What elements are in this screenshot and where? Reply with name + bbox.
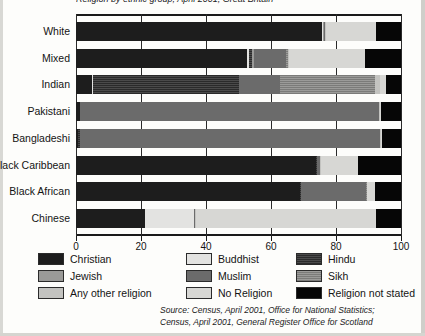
bar-segment-no-religion (367, 182, 374, 201)
legend-item-buddhist[interactable]: Buddhist (186, 252, 259, 265)
gridline-60 (271, 14, 272, 236)
legend-item-sikh[interactable]: Sikh (296, 269, 348, 282)
chart-title: Religion by ethnic group, April 2001, Gr… (76, 0, 406, 6)
bar-row (76, 102, 401, 121)
bar-segment-religion-not-stated (375, 182, 401, 201)
bar-segment-no-religion (326, 22, 376, 41)
source-line-1: Source: Census, April 2001, Office for N… (160, 304, 416, 316)
bar-segment-muslim (80, 129, 381, 148)
legend-swatch-other (38, 287, 64, 299)
legend-item-hindu[interactable]: Hindu (296, 252, 355, 265)
bar-segment-religion-not-stated (365, 49, 401, 68)
legend-label-norel: No Religion (218, 287, 272, 299)
bar-segment-christian (76, 22, 322, 41)
legend-swatch-sikh (296, 270, 322, 282)
bar-row (76, 49, 401, 68)
bar-row (76, 22, 401, 41)
legend-label-hindu: Hindu (328, 253, 355, 265)
bar-segment-christian (76, 209, 145, 228)
legend-swatch-hindu (296, 253, 322, 265)
bar-row (76, 209, 401, 228)
y-axis-label-white: White (0, 22, 70, 41)
stacked-bar[interactable] (76, 75, 401, 94)
bar-segment-muslim (80, 102, 379, 121)
source-note: Source: Census, April 2001, Office for N… (160, 304, 416, 328)
legend-item-other[interactable]: Any other religion (38, 286, 152, 299)
legend-label-jewish: Jewish (70, 270, 102, 282)
bar-segment-religion-not-stated (358, 156, 401, 175)
bar-segment-religion-not-stated (376, 209, 401, 228)
bar-segment-christian (76, 49, 247, 68)
stacked-bar[interactable] (76, 102, 401, 121)
legend-label-buddhist: Buddhist (218, 253, 259, 265)
bar-segment-religion-not-stated (382, 129, 401, 148)
bar-segment-muslim (239, 75, 280, 94)
bar-segment-christian (76, 156, 316, 175)
legend-label-christian: Christian (70, 253, 111, 265)
x-tick-label-40: 40 (200, 241, 211, 252)
bar-row (76, 182, 401, 201)
bar-segment-religion-not-stated (376, 22, 401, 41)
bar-segment-religion-not-stated (381, 102, 401, 121)
bar-segment-hindu (93, 75, 239, 94)
legend-label-other: Any other religion (70, 287, 152, 299)
stacked-bar[interactable] (76, 182, 401, 201)
legend-swatch-norel (186, 287, 212, 299)
stacked-bar[interactable] (76, 156, 401, 175)
x-tick-label-80: 80 (330, 241, 341, 252)
legend-item-christian[interactable]: Christian (38, 252, 111, 265)
bar-segment-buddhist (145, 209, 194, 228)
y-axis-label-mixed: Mixed (0, 49, 70, 68)
stacked-bar[interactable] (76, 22, 401, 41)
gridline-0 (76, 14, 77, 236)
y-axis-label-chinese: Chinese (0, 209, 70, 228)
legend-item-notstated[interactable]: Religion not stated (296, 286, 415, 299)
stacked-bar[interactable] (76, 209, 401, 228)
stacked-bar[interactable] (76, 49, 401, 68)
x-tick-label-20: 20 (135, 241, 146, 252)
bar-row (76, 129, 401, 148)
bar-segment-no-religion (196, 209, 376, 228)
gridline-40 (206, 14, 207, 236)
legend-swatch-buddhist (186, 253, 212, 265)
y-axis-label-bangladeshi: Bangladeshi (0, 129, 70, 148)
legend-label-sikh: Sikh (328, 270, 348, 282)
legend-item-norel[interactable]: No Religion (186, 286, 272, 299)
bar-segment-christian (76, 75, 92, 94)
chart-legend: ChristianJewishAny other religionBuddhis… (38, 252, 410, 300)
legend-swatch-christian (38, 253, 64, 265)
x-axis: 020406080100 (76, 236, 401, 252)
legend-item-muslim[interactable]: Muslim (186, 269, 251, 282)
bar-segment-muslim (301, 182, 366, 201)
legend-swatch-notstated (296, 287, 322, 299)
x-tick-label-100: 100 (393, 241, 410, 252)
plot-area (76, 14, 401, 236)
frame-edge-right (421, 0, 425, 336)
gridline-80 (336, 14, 337, 236)
bar-segment-sikh (280, 75, 375, 94)
bar-segment-no-religion (321, 156, 358, 175)
gridline-100 (401, 14, 402, 236)
y-axis-label-black-african: Black African (0, 182, 70, 201)
bar-segment-no-religion (289, 49, 365, 68)
legend-item-jewish[interactable]: Jewish (38, 269, 102, 282)
x-tick-label-0: 0 (73, 241, 79, 252)
scan-frame: Religion by ethnic group, April 2001, Gr… (0, 0, 425, 336)
plot-top-border (76, 14, 401, 16)
bar-segment-religion-not-stated (386, 75, 401, 94)
legend-label-muslim: Muslim (218, 270, 251, 282)
y-axis-label-pakistani: Pakistani (0, 102, 70, 121)
bar-row (76, 156, 401, 175)
legend-swatch-muslim (186, 270, 212, 282)
x-tick-label-60: 60 (265, 241, 276, 252)
legend-swatch-jewish (38, 270, 64, 282)
y-axis-label-black-caribbean: Black Caribbean (0, 156, 70, 175)
bar-segment-muslim (254, 49, 286, 68)
y-axis-label-indian: Indian (0, 75, 70, 94)
stacked-bar[interactable] (76, 129, 401, 148)
bar-segment-christian (76, 182, 300, 201)
bar-row (76, 75, 401, 94)
source-line-2: Census, April 2001, General Register Off… (160, 316, 416, 328)
gridline-20 (141, 14, 142, 236)
legend-label-notstated: Religion not stated (328, 287, 415, 299)
